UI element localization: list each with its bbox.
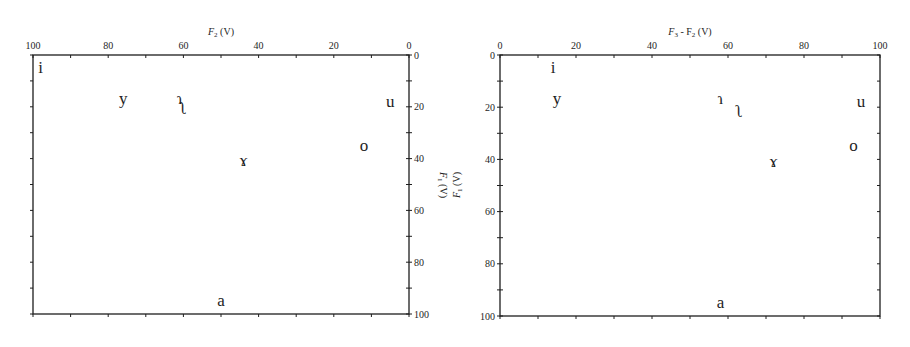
left-x-axis-title: F2 (V) — [207, 26, 234, 39]
left-y-tick-label: 20 — [414, 101, 424, 112]
right-vowel-point: ʅ — [735, 102, 743, 121]
left-vowel-point: u — [386, 92, 395, 111]
left-x-tick-label: 60 — [178, 40, 188, 51]
right-x-tick-label: 20 — [571, 40, 581, 51]
right-x-tick-label: 60 — [723, 40, 733, 51]
right-x-axis-title: F3 - F2 (V) — [667, 26, 711, 39]
right-vowel-point: ɿ — [718, 89, 724, 108]
right-y-tick-label: 80 — [485, 258, 495, 269]
right-vowel-point: a — [717, 293, 725, 312]
right-y-axis-title: F1 (V) — [451, 172, 464, 199]
vowel-formant-charts: 100806040200020406080100iyɿʅɤoua 0204060… — [0, 0, 910, 347]
left-y-tick-label: 40 — [414, 153, 424, 164]
right-vowel-point: i — [551, 58, 556, 77]
left-vowel-point: ɤ — [240, 151, 248, 170]
right-y-tick-label: 0 — [490, 50, 495, 61]
left-x-tick-label: 0 — [407, 40, 412, 51]
right-x-tick-label: 0 — [498, 40, 503, 51]
left-chart-f1-vs-f2: 100806040200020406080100iyɿʅɤoua — [26, 40, 430, 320]
right-x-tick-label: 40 — [647, 40, 657, 51]
right-vowel-point: u — [857, 92, 866, 111]
left-x-tick-label: 80 — [103, 40, 113, 51]
right-y-tick-label: 40 — [485, 154, 495, 165]
left-x-tick-label: 40 — [254, 40, 264, 51]
left-y-axis-title: F1 (V) — [436, 171, 449, 198]
left-x-tick-label: 100 — [26, 40, 41, 51]
right-chart-f1-vs-f3-minus-f2: 020406080100020406080100iyɿʅɤoua — [480, 40, 888, 322]
left-x-tick-label: 20 — [329, 40, 339, 51]
right-y-tick-label: 100 — [480, 311, 495, 322]
left-y-tick-label: 80 — [414, 257, 424, 268]
right-y-tick-label: 20 — [485, 102, 495, 113]
left-vowel-point: y — [119, 89, 128, 108]
right-x-tick-label: 80 — [799, 40, 809, 51]
left-vowel-point: a — [217, 291, 225, 310]
right-y-tick-label: 60 — [485, 206, 495, 217]
right-vowel-point: ɤ — [770, 152, 778, 171]
right-vowel-point: y — [553, 89, 562, 108]
left-vowel-point: ʅ — [179, 99, 187, 118]
left-vowel-point: i — [38, 58, 43, 77]
left-plot-frame — [33, 55, 409, 314]
right-x-tick-label: 100 — [873, 40, 888, 51]
left-y-tick-label: 0 — [414, 50, 419, 61]
left-vowel-point: o — [360, 136, 369, 155]
right-vowel-point: o — [849, 136, 858, 155]
left-y-tick-label: 100 — [414, 309, 429, 320]
left-y-tick-label: 60 — [414, 205, 424, 216]
